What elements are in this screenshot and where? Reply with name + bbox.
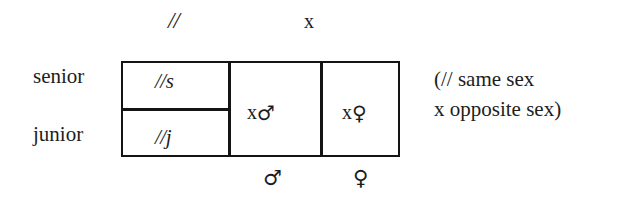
cell-opposite-sex-male: x♂ [247, 102, 275, 123]
row-label-junior: junior [33, 124, 83, 145]
mars-icon: ♂ [257, 101, 275, 125]
cell-same-sex-senior: //s [155, 71, 173, 92]
cell-opposite-sex-male-letter: x [247, 101, 257, 123]
legend-line-same-sex: (// same sex [434, 64, 561, 94]
cell-opposite-sex-female-letter: x [342, 101, 352, 123]
header-opposite-sex-symbol: x [304, 11, 314, 31]
footer-venus-icon: ♀ [353, 168, 368, 189]
table-box: //s //j x♂ x♀ [121, 61, 400, 157]
horizontal-divider [123, 108, 230, 111]
venus-icon: ♀ [352, 101, 367, 125]
cell-same-sex-junior: //j [155, 127, 171, 148]
legend: (// same sex x opposite sex) [434, 64, 561, 124]
cell-opposite-sex-female: x♀ [342, 102, 367, 123]
kinship-table-figure: // x senior junior //s //j x♂ x♀ ♂ ♀ (//… [0, 0, 640, 203]
row-label-senior: senior [33, 66, 84, 87]
header-same-sex-symbol: // [168, 9, 179, 32]
vertical-divider-2 [320, 63, 323, 155]
legend-line-opposite-sex: x opposite sex) [434, 94, 561, 124]
footer-mars-icon: ♂ [263, 168, 282, 189]
